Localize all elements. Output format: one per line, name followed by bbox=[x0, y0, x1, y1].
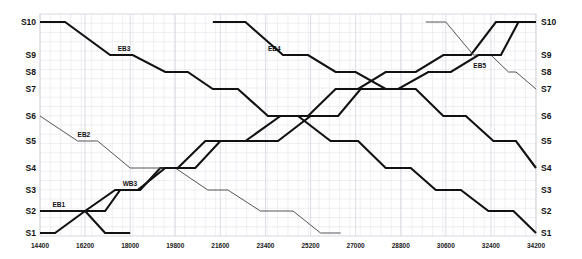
station-label-right-s1: S1 bbox=[541, 228, 552, 238]
station-label-left-s6: S6 bbox=[26, 111, 37, 121]
time-tick-25200: 25200 bbox=[302, 242, 320, 249]
time-tick-27000: 27000 bbox=[347, 242, 365, 249]
station-label-left-s9: S9 bbox=[26, 50, 37, 60]
station-label-right-s2: S2 bbox=[541, 206, 552, 216]
station-label-left-s2: S2 bbox=[26, 206, 37, 216]
station-label-right-s9: S9 bbox=[541, 50, 552, 60]
string-line-diagram: S10S9S8S7S6S5S4S3S2S1 S10S9S8S7S6S5S4S3S… bbox=[0, 0, 582, 259]
time-tick-32400: 32400 bbox=[482, 242, 500, 249]
time-tick-34200: 34200 bbox=[527, 242, 545, 249]
train-label-eb5: EB5 bbox=[473, 62, 486, 69]
station-label-right-s4: S4 bbox=[541, 163, 552, 173]
train-label-eb3: EB3 bbox=[118, 45, 131, 52]
station-label-right-s7: S7 bbox=[541, 84, 552, 94]
station-label-right-s8: S8 bbox=[541, 67, 552, 77]
station-label-right-s5: S5 bbox=[541, 136, 552, 146]
time-tick-30600: 30600 bbox=[437, 242, 455, 249]
station-label-right-s10: S10 bbox=[541, 17, 556, 27]
station-label-left-s1: S1 bbox=[26, 228, 37, 238]
time-tick-21600: 21600 bbox=[211, 242, 229, 249]
station-label-left-s8: S8 bbox=[26, 67, 37, 77]
time-tick-14400: 14400 bbox=[31, 242, 49, 249]
station-label-left-s10: S10 bbox=[21, 17, 36, 27]
station-label-right-s6: S6 bbox=[541, 111, 552, 121]
station-label-left-s4: S4 bbox=[26, 163, 37, 173]
train-label-eb1: EB1 bbox=[53, 201, 66, 208]
chart-canvas: S10S9S8S7S6S5S4S3S2S1 S10S9S8S7S6S5S4S3S… bbox=[0, 0, 582, 259]
station-label-left-s7: S7 bbox=[26, 84, 37, 94]
station-label-left-s5: S5 bbox=[26, 136, 37, 146]
train-label-wb3: WB3 bbox=[123, 180, 138, 187]
time-tick-23400: 23400 bbox=[256, 242, 274, 249]
time-tick-18000: 18000 bbox=[121, 242, 139, 249]
time-tick-19800: 19800 bbox=[166, 242, 184, 249]
time-tick-28800: 28800 bbox=[392, 242, 410, 249]
station-label-right-s3: S3 bbox=[541, 185, 552, 195]
train-label-eb2: EB2 bbox=[78, 131, 91, 138]
station-label-left-s3: S3 bbox=[26, 185, 37, 195]
time-tick-16200: 16200 bbox=[76, 242, 94, 249]
train-label-eb4: EB4 bbox=[268, 45, 281, 52]
